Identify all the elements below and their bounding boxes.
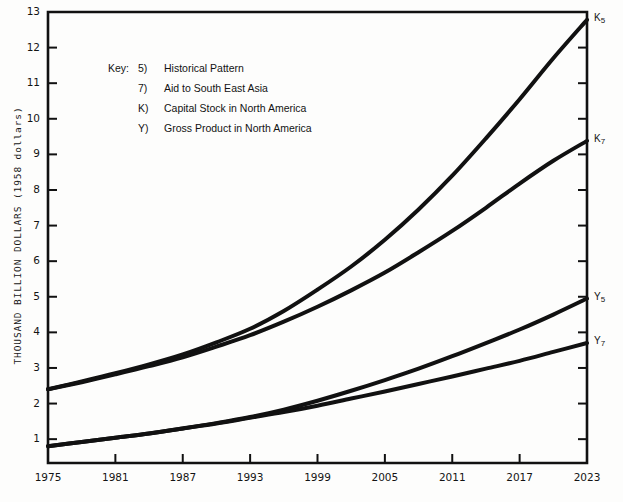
y-tick-label: 11 <box>18 76 40 88</box>
curve-label-subscript: 5 <box>601 16 605 25</box>
legend-symbol: K) <box>138 102 164 114</box>
y-tick-label: 4 <box>18 325 40 337</box>
y-tick-label: 2 <box>18 397 40 409</box>
x-tick-label: 2017 <box>500 471 540 483</box>
legend-label: Aid to South East Asia <box>164 82 268 94</box>
x-axis-ticks <box>115 454 519 463</box>
y-tick-label: 1 <box>18 432 40 444</box>
legend: Key: 5) Historical Pattern 7) Aid to Sou… <box>108 62 312 142</box>
x-tick-label: 1987 <box>163 471 203 483</box>
y-tick-label: 6 <box>18 254 40 266</box>
legend-label: Historical Pattern <box>164 62 244 74</box>
y-tick-label: 13 <box>18 5 40 17</box>
chart-figure: THOUSAND BILLION DOLLARS (1958 dollars) … <box>0 0 623 502</box>
x-tick-label: 1981 <box>95 471 135 483</box>
curve-label-subscript: 5 <box>601 295 605 304</box>
y-tick-label: 7 <box>18 219 40 231</box>
y-tick-label: 9 <box>18 147 40 159</box>
curve-label-symbol: Y <box>594 335 601 346</box>
legend-symbol: 7) <box>138 82 164 94</box>
curve-label-symbol: Y <box>594 291 601 302</box>
curve-label-y7: Y7 <box>594 335 605 348</box>
legend-label: Capital Stock in North America <box>164 102 306 114</box>
legend-row: Key: 5) Historical Pattern <box>108 62 312 82</box>
x-tick-label: 1975 <box>28 471 68 483</box>
y-tick-label: 8 <box>18 183 40 195</box>
legend-title: Key: <box>108 62 138 74</box>
legend-row: Y) Gross Product in North America <box>108 122 312 142</box>
x-tick-label: 1993 <box>230 471 270 483</box>
curve-label-symbol: K <box>594 133 601 144</box>
y-tick-label: 10 <box>18 112 40 124</box>
legend-row: K) Capital Stock in North America <box>108 102 312 122</box>
x-tick-label: 2005 <box>365 471 405 483</box>
curve-label-k5: K5 <box>594 12 605 25</box>
curve-label-subscript: 7 <box>601 137 605 146</box>
legend-row: 7) Aid to South East Asia <box>108 82 312 102</box>
y-tick-label: 12 <box>18 41 40 53</box>
curve-label-symbol: K <box>594 12 601 23</box>
x-tick-label: 2011 <box>432 471 472 483</box>
curve-label-subscript: 7 <box>601 339 605 348</box>
legend-symbol: Y) <box>138 122 164 134</box>
curve-label-y5: Y5 <box>594 291 605 304</box>
legend-label: Gross Product in North America <box>164 122 312 134</box>
legend-symbol: 5) <box>138 62 164 74</box>
y-tick-label: 5 <box>18 290 40 302</box>
y-tick-label: 3 <box>18 361 40 373</box>
x-tick-label: 2023 <box>567 471 607 483</box>
x-tick-label: 1999 <box>298 471 338 483</box>
curve-label-k7: K7 <box>594 133 605 146</box>
